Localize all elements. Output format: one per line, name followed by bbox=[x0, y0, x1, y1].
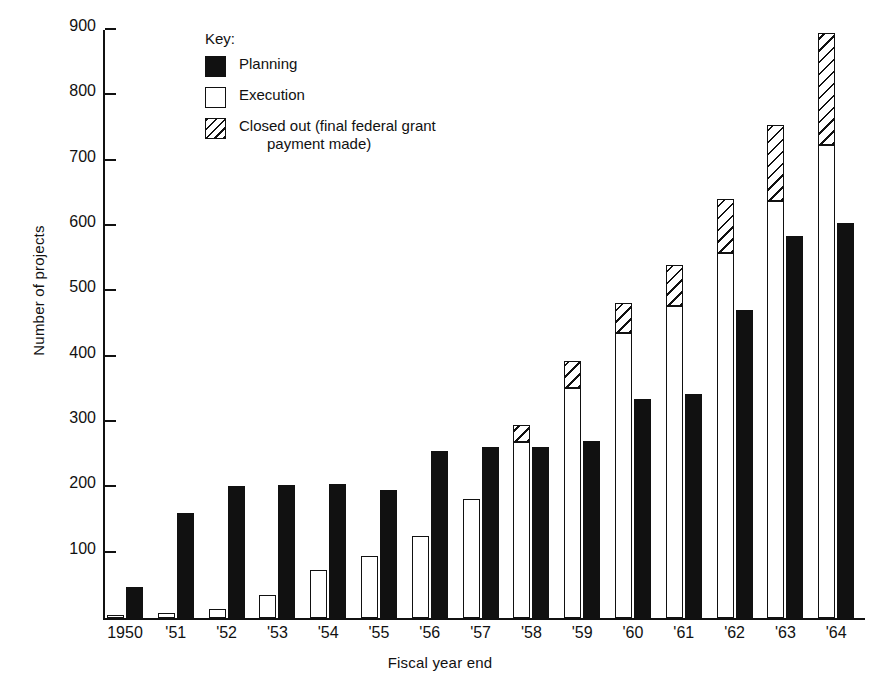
bar-planning bbox=[532, 447, 549, 618]
bar-closed-out bbox=[615, 303, 632, 332]
legend-swatch-closed-out-icon bbox=[205, 118, 226, 139]
bar-planning bbox=[583, 441, 600, 618]
bar-execution bbox=[259, 595, 276, 618]
bar-planning bbox=[329, 484, 346, 618]
bar-planning bbox=[126, 587, 143, 618]
bar-closed-out bbox=[818, 33, 835, 145]
bar-group bbox=[666, 30, 702, 618]
legend-label-closed-out-line2: payment made) bbox=[239, 135, 436, 153]
bar-execution bbox=[412, 536, 429, 618]
x-axis-tick-label: '63 bbox=[757, 624, 813, 642]
y-axis-tick-label: 500 bbox=[42, 278, 96, 296]
y-axis-tick-label: 300 bbox=[42, 409, 96, 427]
y-axis-tick-label: 700 bbox=[42, 148, 96, 166]
bar-group bbox=[107, 30, 143, 618]
bar-planning bbox=[634, 399, 651, 618]
bar-group bbox=[615, 30, 651, 618]
bar-planning bbox=[431, 451, 448, 618]
legend-item-execution: Execution bbox=[205, 86, 545, 108]
bar-group bbox=[158, 30, 194, 618]
bar-chart: Number of projects 100200300400500600700… bbox=[0, 0, 880, 690]
x-axis-tick-label: '62 bbox=[707, 624, 763, 642]
x-axis-title: Fiscal year end bbox=[0, 654, 880, 671]
bar-execution bbox=[513, 442, 530, 618]
bar-execution bbox=[310, 570, 327, 618]
x-axis-tick-label: '58 bbox=[503, 624, 559, 642]
bar-planning bbox=[685, 394, 702, 618]
bar-execution bbox=[209, 609, 226, 618]
x-axis-tick-label: '61 bbox=[656, 624, 712, 642]
bar-closed-out bbox=[666, 265, 683, 307]
legend-label-execution: Execution bbox=[239, 86, 305, 104]
bar-execution bbox=[361, 556, 378, 618]
bar-execution bbox=[158, 613, 175, 618]
bar-closed-out bbox=[717, 199, 734, 253]
x-axis-tick-label: '56 bbox=[402, 624, 458, 642]
bar-execution bbox=[767, 201, 784, 618]
legend-label-closed-out: Closed out (final federal grant payment … bbox=[239, 117, 436, 154]
x-axis-tick-label: '55 bbox=[351, 624, 407, 642]
bar-group bbox=[818, 30, 854, 618]
x-axis-tick-label: '54 bbox=[300, 624, 356, 642]
y-axis-tick-label: 800 bbox=[42, 82, 96, 100]
bar-closed-out bbox=[513, 425, 530, 442]
bar-group bbox=[767, 30, 803, 618]
bar-planning bbox=[380, 490, 397, 618]
y-axis-tick-label: 400 bbox=[42, 344, 96, 362]
bar-execution bbox=[463, 499, 480, 618]
y-axis-tick-label: 900 bbox=[42, 17, 96, 35]
y-axis-tick-label: 600 bbox=[42, 213, 96, 231]
bar-execution bbox=[666, 306, 683, 618]
bar-planning bbox=[786, 236, 803, 618]
x-axis-tick-label: '52 bbox=[199, 624, 255, 642]
bar-planning bbox=[837, 223, 854, 618]
legend-item-planning: Planning bbox=[205, 55, 545, 77]
bar-group bbox=[717, 30, 753, 618]
x-axis-tick-label: '57 bbox=[453, 624, 509, 642]
x-axis-tick-label: 1950 bbox=[97, 624, 153, 642]
bar-closed-out bbox=[564, 361, 581, 388]
bar-execution bbox=[107, 615, 124, 618]
bar-planning bbox=[228, 486, 245, 618]
legend: Key: Planning Execution Closed out (fina… bbox=[205, 30, 545, 163]
bar-execution bbox=[717, 253, 734, 618]
x-axis-tick-label: '53 bbox=[249, 624, 305, 642]
legend-label-closed-out-line1: Closed out (final federal grant bbox=[239, 117, 436, 134]
y-axis-tick-label: 100 bbox=[42, 540, 96, 558]
legend-label-planning: Planning bbox=[239, 55, 297, 73]
x-axis-tick-label: '60 bbox=[605, 624, 661, 642]
x-axis-tick-label: '59 bbox=[554, 624, 610, 642]
x-axis-line bbox=[103, 618, 865, 620]
x-axis-tick-labels: 1950'51'52'53'54'55'56'57'58'59'60'61'62… bbox=[103, 624, 865, 650]
legend-swatch-execution-icon bbox=[205, 87, 226, 108]
legend-title: Key: bbox=[205, 30, 545, 47]
bar-closed-out bbox=[767, 125, 784, 201]
x-axis-tick-label: '64 bbox=[808, 624, 864, 642]
bar-execution bbox=[564, 388, 581, 618]
legend-swatch-planning-icon bbox=[205, 56, 226, 77]
bar-planning bbox=[482, 447, 499, 618]
bar-planning bbox=[278, 485, 295, 618]
y-axis-tick-label: 200 bbox=[42, 474, 96, 492]
legend-item-closed-out: Closed out (final federal grant payment … bbox=[205, 117, 545, 154]
bar-group bbox=[564, 30, 600, 618]
x-axis-tick-label: '51 bbox=[148, 624, 204, 642]
bar-execution bbox=[818, 145, 835, 618]
bar-planning bbox=[177, 513, 194, 618]
bar-planning bbox=[736, 310, 753, 618]
bar-execution bbox=[615, 333, 632, 619]
